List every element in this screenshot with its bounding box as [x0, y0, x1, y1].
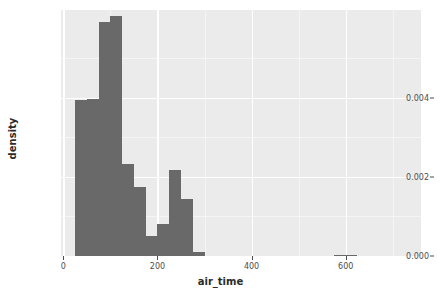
x-axis-tick-mark: [63, 256, 64, 260]
histogram-bar: [181, 199, 193, 256]
x-axis-tick-label: 400: [244, 262, 259, 271]
gridline-major-vertical: [63, 10, 64, 256]
histogram-bar: [346, 255, 358, 256]
histogram-bar: [334, 255, 346, 256]
histogram-bar: [169, 170, 181, 256]
histogram-bar: [193, 252, 205, 256]
y-axis-tick-mark: [430, 176, 434, 177]
x-axis-tick-mark: [346, 256, 347, 260]
histogram-bar: [87, 99, 99, 256]
x-axis-tick-label: 0: [61, 262, 66, 271]
histogram-bar: [110, 16, 122, 256]
y-axis-tick-label: 0.002: [406, 172, 429, 181]
gridline-minor-vertical: [205, 10, 206, 256]
y-axis-tick-label: 0.004: [406, 93, 429, 102]
gridline-minor-vertical: [299, 10, 300, 256]
gridline-minor-vertical: [393, 10, 394, 256]
x-axis-tick-label: 600: [338, 262, 353, 271]
histogram-bar: [146, 236, 158, 256]
x-axis-title: air_time: [0, 276, 441, 287]
histogram-bar: [99, 22, 111, 256]
y-axis-tick-mark: [430, 97, 434, 98]
histogram-figure: density air_time 0.0000.0020.00402004006…: [0, 0, 441, 305]
plot-panel: [61, 10, 421, 256]
x-axis-tick-label: 200: [150, 262, 165, 271]
gridline-major-vertical: [157, 10, 158, 256]
gridline-major-vertical: [252, 10, 253, 256]
histogram-bar: [75, 100, 87, 256]
y-axis-tick-label: 0.000: [406, 252, 429, 261]
histogram-bar: [122, 164, 134, 256]
x-axis-tick-mark: [157, 256, 158, 260]
gridline-major-vertical: [346, 10, 347, 256]
y-axis-title: density: [7, 99, 18, 179]
histogram-bar: [157, 224, 169, 256]
x-axis-tick-mark: [252, 256, 253, 260]
histogram-bar: [134, 187, 146, 256]
histogram-bar: [205, 256, 217, 257]
y-axis-tick-mark: [430, 256, 434, 257]
